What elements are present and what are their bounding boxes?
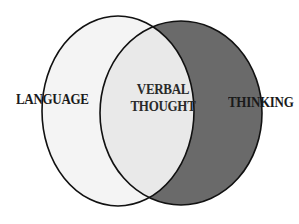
- venn-diagram: LANGUAGE VERBAL THOUGHT THINKING: [0, 0, 299, 224]
- language-label: LANGUAGE: [16, 90, 89, 108]
- verbal-thought-line1: VERBAL: [127, 80, 199, 97]
- thinking-label: THINKING: [228, 93, 294, 111]
- verbal-thought-label: VERBAL THOUGHT: [127, 80, 199, 115]
- verbal-thought-line2: THOUGHT: [127, 97, 199, 114]
